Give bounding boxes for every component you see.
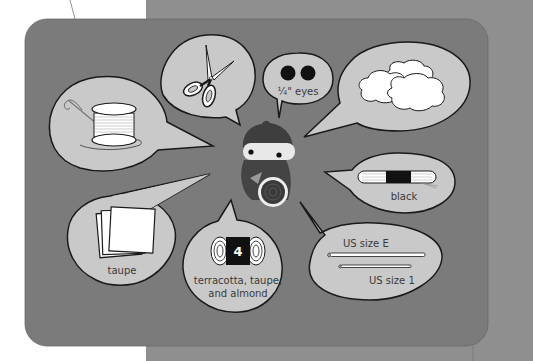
floss-label: black: [391, 191, 418, 202]
decorative-line-top: [70, 0, 75, 19]
safety-eye-right-icon: [301, 66, 316, 81]
amigurumi-doll: [241, 121, 295, 207]
supplies-illustration: ¼" eyes black taupe: [0, 0, 533, 361]
safety-eye-left-icon: [281, 66, 296, 81]
yarn-weight-badge: 4: [233, 244, 242, 259]
hook-size-e-label: US size E: [343, 238, 389, 249]
felt-label: taupe: [108, 265, 137, 276]
doll-eye-right: [276, 152, 281, 157]
doll-eye-left: [248, 149, 253, 154]
eyes-label: ¼" eyes: [278, 86, 319, 97]
yarn-label-line1: terracotta, taupe,: [194, 275, 282, 286]
felt-sheets-icon: [96, 207, 155, 258]
yarn-weight-icon: 4: [211, 237, 265, 265]
yarn-label-line2: and almond: [208, 288, 267, 299]
hook-size-1-label: US size 1: [369, 275, 415, 286]
